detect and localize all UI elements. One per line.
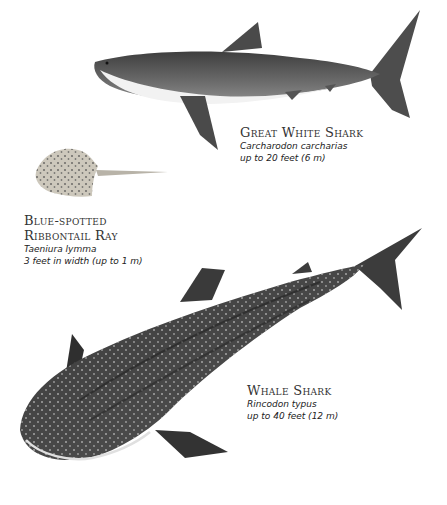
size-text: up to 20 feet (6 m)	[240, 152, 363, 164]
great-white-shark-label: Great White Shark Carcharodon carcharias…	[240, 125, 363, 164]
scientific-name: Carcharodon carcharias	[240, 140, 363, 152]
common-name-line2: Ribbontail Ray	[24, 228, 143, 243]
size-text: up to 40 feet (12 m)	[247, 410, 338, 422]
common-name: Whale Shark	[247, 383, 338, 398]
ray-label: Blue-spotted Ribbontail Ray Taeniura lym…	[24, 213, 143, 267]
common-name: Great White Shark	[240, 125, 363, 140]
scientific-name: Taeniura lymma	[24, 243, 143, 255]
whale-shark-label: Whale Shark Rincodon typus up to 40 feet…	[247, 383, 338, 422]
scientific-name: Rincodon typus	[247, 398, 338, 410]
common-name-line1: Blue-spotted	[24, 213, 143, 228]
blue-spotted-ray-illustration	[36, 149, 168, 197]
size-text: 3 feet in width (up to 1 m)	[24, 255, 143, 267]
